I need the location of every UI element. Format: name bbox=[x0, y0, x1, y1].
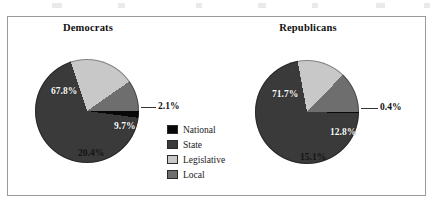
legend-swatch-legislative bbox=[167, 155, 178, 164]
slice-label-republicans-state: 71.7% bbox=[272, 89, 298, 99]
scan-artifact-strip bbox=[0, 0, 434, 13]
legend-swatch-local bbox=[167, 170, 178, 179]
slice-label-democrats-national: 2.1% bbox=[158, 101, 179, 111]
legend: National State Legislative Local bbox=[167, 122, 225, 182]
legend-item-legislative: Legislative bbox=[167, 152, 225, 167]
legend-label-national: National bbox=[183, 125, 216, 135]
legend-swatch-state bbox=[167, 140, 178, 149]
legend-swatch-national bbox=[167, 125, 178, 134]
legend-item-local: Local bbox=[167, 167, 225, 182]
slice-label-democrats-legislative: 20.4% bbox=[78, 148, 104, 158]
legend-item-national: National bbox=[167, 122, 225, 137]
slice-label-republicans-local: 12.8% bbox=[330, 127, 356, 137]
legend-label-state: State bbox=[183, 140, 202, 150]
slice-label-democrats-local: 9.7% bbox=[114, 121, 135, 131]
slice-label-democrats-state: 67.8% bbox=[51, 86, 77, 96]
chart-title-republicans: Republicans bbox=[258, 22, 358, 33]
leader-line-republicans-national bbox=[361, 108, 378, 109]
legend-label-legislative: Legislative bbox=[183, 155, 225, 165]
legend-label-local: Local bbox=[183, 170, 205, 180]
slice-label-republicans-legislative: 15.1% bbox=[300, 152, 326, 162]
chart-title-democrats: Democrats bbox=[40, 22, 136, 33]
pie-chart-republicans bbox=[255, 60, 359, 164]
slice-label-republicans-national: 0.4% bbox=[380, 102, 401, 112]
legend-item-state: State bbox=[167, 137, 225, 152]
figure-root: Democrats 67.8% 9.7% 20.4% 2.1% National… bbox=[0, 0, 434, 209]
leader-line-democrats-national bbox=[141, 107, 156, 108]
